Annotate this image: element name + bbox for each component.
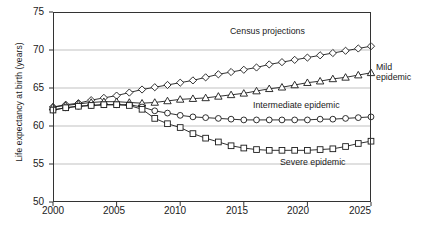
annotation-severe-epidemic: Severe epidemic bbox=[280, 157, 346, 168]
life-expectancy-line-chart: Life expectancy at birth (years) 75 70 6… bbox=[0, 0, 421, 238]
annotation-intermediate-epidemic: Intermediate epidemic bbox=[253, 100, 340, 111]
annotation-mild-epidemic-line2: epidemic bbox=[376, 72, 411, 83]
annotation-mild-epidemic-line1: Mild bbox=[376, 62, 392, 73]
annotation-census-projections: Census projections bbox=[230, 26, 305, 37]
